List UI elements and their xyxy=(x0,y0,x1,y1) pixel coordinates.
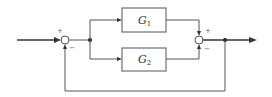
line-to-G2 xyxy=(90,40,118,59)
line-G1-to-sum2 xyxy=(166,20,199,33)
arrow-to-G1-icon xyxy=(117,18,122,22)
sum1-minus-sign: − xyxy=(69,44,75,52)
summing-junction-1 xyxy=(61,36,69,44)
summing-junction-2 xyxy=(195,36,203,44)
arrow-G2-sum2-icon xyxy=(197,44,201,49)
block-diagram: + − G1 G2 + − xyxy=(0,0,272,97)
sum2-minus-sign: − xyxy=(204,45,210,53)
sum1-plus-sign: + xyxy=(57,27,63,35)
feedback-arrow-icon xyxy=(63,44,67,49)
line-to-G1 xyxy=(90,20,118,40)
arrow-to-G2-icon xyxy=(117,57,122,61)
sum2-plus-sign: + xyxy=(205,27,211,35)
output-arrow-icon xyxy=(249,37,257,43)
arrow-G1-sum2-icon xyxy=(197,31,201,36)
line-G2-to-sum2 xyxy=(166,47,199,59)
input-arrow-icon xyxy=(54,37,61,43)
